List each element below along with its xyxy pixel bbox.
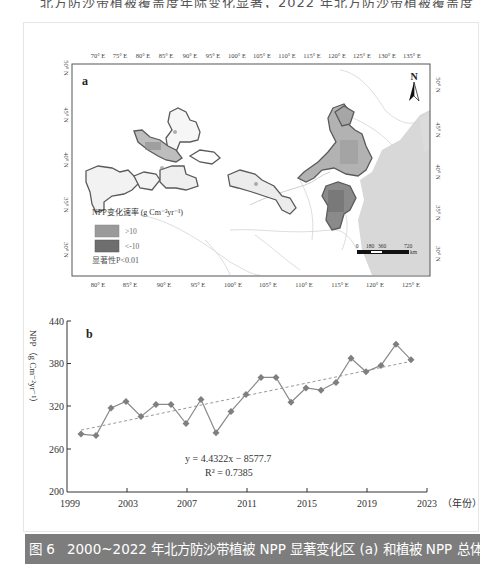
regression-r2: R² = 0.7385: [205, 467, 253, 478]
svg-text:260: 260: [49, 444, 64, 455]
x-axis-label: （年份）: [442, 497, 482, 509]
npp-markers: [78, 341, 415, 439]
chart-panel-b: 440 380 320 260 200 1999 2003 2007 2011 …: [0, 0, 501, 530]
svg-text:440: 440: [49, 316, 64, 327]
y-tick-labels: 440 380 320 260 200: [49, 316, 64, 497]
panel-label-b: b: [86, 327, 93, 341]
svg-text:2007: 2007: [177, 498, 197, 509]
svg-text:200: 200: [49, 486, 64, 497]
figure-number: 图 6: [29, 541, 55, 557]
regression-equation: y = 4.4322x − 8577.7: [185, 453, 271, 464]
x-tick-labels: 1999 2003 2007 2011 2015 2019 2023: [60, 498, 437, 509]
svg-text:380: 380: [49, 358, 64, 369]
svg-text:2023: 2023: [417, 498, 437, 509]
svg-text:2003: 2003: [118, 498, 138, 509]
svg-text:320: 320: [49, 401, 64, 412]
svg-text:1999: 1999: [60, 498, 80, 509]
svg-text:2011: 2011: [237, 498, 257, 509]
figure-caption-text: 2000~2022 年北方防沙带植被 NPP 显著变化区 (a) 和植被 NPP…: [67, 541, 480, 557]
svg-text:2019: 2019: [357, 498, 377, 509]
figure-caption: 图 62000~2022 年北方防沙带植被 NPP 显著变化区 (a) 和植被 …: [25, 534, 480, 564]
y-axis-label: NPP（g Cm⁻²yr⁻¹）: [28, 330, 38, 407]
svg-text:2015: 2015: [297, 498, 317, 509]
npp-line: [81, 344, 411, 435]
